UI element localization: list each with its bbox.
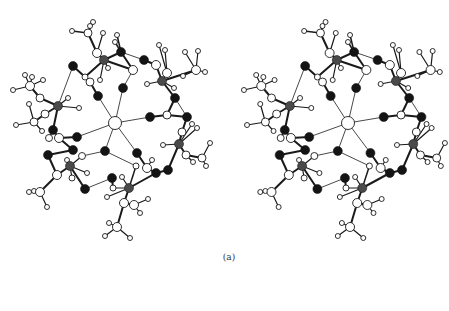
atom-white: [346, 223, 355, 232]
atom-white: [339, 221, 344, 226]
atom-black: [275, 151, 284, 160]
atom-white: [277, 135, 284, 142]
atom-white: [55, 134, 64, 143]
atom-white: [138, 211, 143, 216]
atom-white: [385, 61, 394, 70]
atom-white: [208, 141, 213, 146]
atom-gray: [125, 184, 134, 193]
atom-white: [273, 110, 281, 118]
atom-black: [69, 146, 78, 155]
atom-white: [301, 175, 307, 181]
atom-white: [261, 75, 266, 80]
atom-black: [101, 147, 110, 156]
atom-white: [172, 86, 177, 91]
atom-white: [353, 175, 358, 180]
atom-white: [241, 88, 246, 93]
atom-black: [385, 169, 394, 178]
atom-white: [183, 50, 188, 55]
atom-white: [361, 236, 366, 241]
atom-white: [69, 175, 75, 181]
atom-white: [163, 48, 168, 53]
atom-black: [350, 48, 359, 57]
atom-white: [182, 151, 190, 159]
molecular-stereo-diagram: [0, 0, 449, 311]
atom-white: [27, 102, 32, 107]
atom-black: [352, 84, 361, 93]
atom-white: [309, 106, 314, 111]
atom-white: [394, 143, 399, 148]
atom-black: [152, 169, 161, 178]
atom-white: [178, 128, 186, 136]
atom-white: [115, 33, 120, 38]
atom-white: [415, 74, 420, 79]
atom-white: [120, 199, 129, 208]
atom-white: [98, 78, 103, 83]
atom-white: [146, 197, 151, 202]
atom-black: [183, 113, 192, 122]
atom-white: [397, 48, 402, 53]
atom-white: [425, 160, 430, 165]
atom-black: [73, 133, 82, 142]
atom-white: [325, 49, 334, 58]
atom-white: [348, 33, 353, 38]
atom-black: [133, 149, 142, 158]
atom-gray: [66, 162, 75, 171]
atom-white: [258, 190, 263, 195]
atom-white: [85, 171, 90, 176]
atom-black: [171, 94, 180, 103]
atom-black: [417, 113, 426, 122]
atom-white: [53, 171, 62, 180]
atom-white: [41, 78, 46, 83]
atom-white: [343, 185, 349, 191]
atom-white: [267, 188, 276, 197]
atom-black: [333, 147, 342, 156]
atom-white: [36, 188, 45, 197]
atom-black: [280, 126, 289, 135]
atom-gray: [54, 102, 63, 111]
atom-white: [268, 94, 276, 102]
atom-white: [113, 223, 122, 232]
atom-white: [430, 49, 435, 54]
atom-white: [86, 78, 94, 86]
atom-white: [198, 154, 206, 162]
atom-black: [164, 166, 173, 175]
atom-white: [107, 221, 112, 226]
atom-white: [105, 195, 110, 200]
atom-black: [305, 133, 314, 142]
atom-white: [106, 66, 111, 71]
atom-white: [150, 158, 155, 163]
atom-white: [101, 31, 106, 36]
atom-white: [163, 111, 171, 119]
atom-white: [66, 96, 71, 101]
atom-white: [109, 117, 122, 130]
atom-gray: [285, 102, 294, 111]
atom-white: [195, 126, 200, 131]
atom-white: [342, 117, 355, 130]
atom-white: [161, 143, 166, 148]
atom-black: [313, 185, 322, 194]
atom-white: [317, 171, 322, 176]
atom-white: [133, 163, 139, 169]
atom-black: [69, 62, 78, 71]
atom-white: [204, 164, 209, 169]
atom-white: [93, 49, 102, 58]
atom-white: [276, 205, 281, 210]
atom-black: [117, 48, 126, 57]
atom-white: [426, 66, 435, 75]
atom-white: [379, 197, 384, 202]
atom-white: [271, 129, 276, 134]
atom-black: [398, 166, 407, 175]
atom-white: [302, 29, 307, 34]
atom-white: [41, 110, 49, 118]
atom-white: [330, 78, 335, 83]
atom-gray: [158, 77, 167, 86]
atom-white: [319, 78, 327, 86]
atom-white: [383, 158, 388, 163]
atom-white: [120, 175, 125, 180]
atom-white: [152, 61, 161, 70]
atom-white: [406, 86, 411, 91]
atom-white: [397, 111, 405, 119]
atom-white: [11, 88, 16, 93]
atom-black: [373, 56, 382, 65]
atom-white: [346, 40, 351, 45]
